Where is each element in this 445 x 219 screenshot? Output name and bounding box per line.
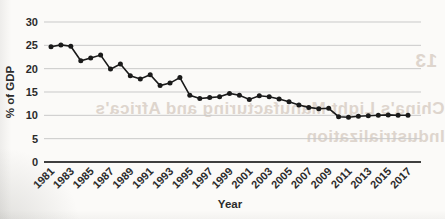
- data-series: [49, 42, 411, 119]
- series-line: [51, 45, 408, 117]
- data-point: [406, 113, 411, 118]
- data-point: [78, 58, 83, 63]
- data-point: [237, 93, 242, 98]
- x-tick-label: 2007: [288, 165, 314, 191]
- data-point: [376, 113, 381, 118]
- x-tick-label: 1991: [130, 165, 156, 191]
- line-chart: 051015202530 198119831985198719891991199…: [0, 0, 445, 219]
- x-tick-label: 1989: [110, 165, 136, 191]
- data-point: [217, 94, 222, 99]
- x-tick-label: 2005: [269, 165, 295, 191]
- data-point: [158, 83, 163, 88]
- data-point: [58, 42, 63, 47]
- data-point: [207, 95, 212, 100]
- data-point: [316, 106, 321, 111]
- x-tick-label: 1985: [70, 165, 96, 191]
- data-point: [148, 72, 153, 77]
- data-point: [247, 97, 252, 102]
- x-tick-label: 2013: [348, 165, 374, 191]
- data-point: [98, 53, 103, 58]
- data-point: [346, 115, 351, 120]
- x-tick-label: 2003: [249, 165, 275, 191]
- y-tick-label: 10: [26, 109, 38, 121]
- x-tick-label: 1981: [31, 165, 57, 191]
- data-point: [68, 44, 73, 49]
- data-point: [356, 114, 361, 119]
- gridlines: [44, 22, 421, 162]
- data-point: [177, 75, 182, 80]
- data-point: [257, 93, 262, 98]
- y-tick-label: 5: [32, 133, 38, 145]
- data-point: [287, 99, 292, 104]
- data-point: [138, 76, 143, 81]
- data-point: [267, 94, 272, 99]
- data-point: [168, 81, 173, 86]
- x-tick-label: 2009: [308, 165, 334, 191]
- y-axis-tick-labels: 051015202530: [26, 16, 38, 168]
- y-tick-label: 15: [26, 86, 38, 98]
- data-point: [108, 67, 113, 72]
- scanned-page: 13 China's Light Manufacturing and Afric…: [0, 0, 445, 219]
- x-tick-label: 1997: [189, 165, 215, 191]
- data-point: [386, 112, 391, 117]
- x-tick-label: 1995: [169, 165, 195, 191]
- x-tick-label: 1999: [209, 165, 235, 191]
- data-point: [306, 105, 311, 110]
- data-point: [227, 91, 232, 96]
- data-point: [326, 106, 331, 111]
- data-point: [336, 114, 341, 119]
- y-tick-label: 25: [26, 39, 38, 51]
- x-tick-label: 2017: [388, 165, 414, 191]
- x-tick-label: 1983: [50, 165, 76, 191]
- data-point: [197, 96, 202, 101]
- data-point: [396, 113, 401, 118]
- data-point: [49, 44, 54, 49]
- y-axis-title: % of GDP: [4, 65, 16, 118]
- y-tick-label: 30: [26, 16, 38, 28]
- data-point: [88, 55, 93, 60]
- y-tick-label: 20: [26, 63, 38, 75]
- data-point: [128, 73, 133, 78]
- x-tick-label: 1987: [90, 165, 116, 191]
- x-tick-label: 2011: [329, 165, 354, 190]
- x-tick-label: 1993: [150, 165, 176, 191]
- data-point: [366, 113, 371, 118]
- data-point: [187, 93, 192, 98]
- y-tick-label: 0: [32, 156, 38, 168]
- data-point: [296, 103, 301, 108]
- data-point: [118, 62, 123, 67]
- x-axis-tick-labels: 1981198319851987198919911993199519971999…: [31, 165, 414, 191]
- x-axis-title: Year: [218, 198, 243, 210]
- data-point: [277, 97, 282, 102]
- x-tick-label: 2001: [229, 165, 255, 191]
- x-tick-label: 2015: [368, 165, 394, 191]
